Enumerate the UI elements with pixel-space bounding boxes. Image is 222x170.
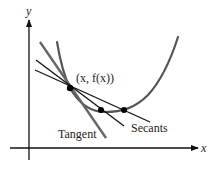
secant-point-2 (121, 107, 127, 113)
tangent-secant-diagram: y x (x, f(x)) Tangent Secants (0, 0, 222, 170)
point-label: (x, f(x)) (76, 71, 114, 85)
tangent-point (67, 85, 73, 91)
secants-label: Secants (131, 121, 168, 135)
tangent-label: Tangent (58, 127, 97, 141)
secant-line-1 (36, 60, 124, 126)
y-axis-label: y (25, 4, 32, 18)
tangent-line (40, 42, 106, 138)
secant-point-1 (98, 107, 104, 113)
x-axis-label: x (200, 141, 207, 155)
